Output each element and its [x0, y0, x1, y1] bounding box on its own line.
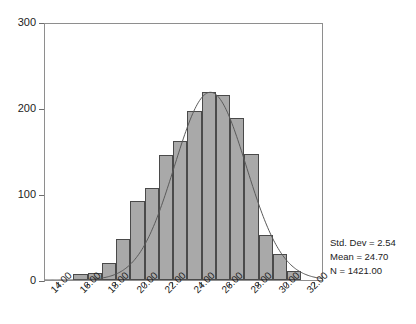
y-axis-tick [39, 281, 44, 282]
y-axis-line [44, 23, 45, 282]
y-axis-label: 100 [0, 189, 36, 200]
y-axis-tick [39, 195, 44, 196]
y-axis-tick [39, 23, 44, 24]
mean-text: Mean = 24.70 [330, 250, 396, 264]
std-dev-text: Std. Dev = 2.54 [330, 236, 396, 250]
plot-area [44, 23, 323, 281]
statistics-box: Std. Dev = 2.54 Mean = 24.70 N = 1421.00 [330, 236, 396, 278]
y-axis-tick [39, 109, 44, 110]
n-text: N = 1421.00 [330, 264, 396, 278]
histogram-chart: 0100200300 14.0016.0018.0020.0022.0024.0… [0, 0, 416, 324]
y-axis-label: 0 [0, 275, 36, 286]
y-axis-label: 300 [0, 17, 36, 28]
y-axis-label: 200 [0, 103, 36, 114]
normal-distribution-curve [45, 24, 322, 280]
